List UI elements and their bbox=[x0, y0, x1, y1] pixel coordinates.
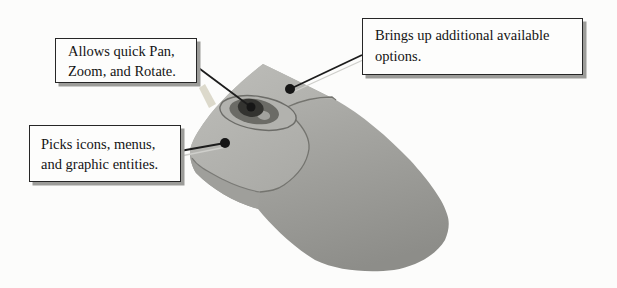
callout-box-right-button: Brings up additional available options. bbox=[362, 18, 583, 75]
leader-dot-wheel bbox=[247, 103, 256, 112]
leader-dot-left-button bbox=[220, 138, 230, 148]
leader-line-right-button bbox=[290, 55, 362, 89]
diagram-stage: Allows quick Pan, Zoom, and Rotate. Brin… bbox=[0, 0, 617, 288]
callout-text: and graphic entities. bbox=[41, 154, 176, 174]
callout-box-scroll-wheel: Allows quick Pan, Zoom, and Rotate. bbox=[55, 38, 197, 83]
leader-echo-right-button bbox=[293, 60, 363, 92]
callout-box-left-button: Picks icons, menus, and graphic entities… bbox=[29, 125, 181, 182]
mouse-cable bbox=[199, 84, 216, 108]
callout-text: Zoom, and Rotate. bbox=[68, 61, 190, 81]
leader-dot-right-button bbox=[285, 84, 295, 94]
callout-text: options. bbox=[375, 46, 576, 67]
callout-text: Allows quick Pan, bbox=[68, 41, 190, 61]
callout-text: Picks icons, menus, bbox=[41, 134, 176, 154]
callout-text: Brings up additional available bbox=[375, 25, 576, 46]
